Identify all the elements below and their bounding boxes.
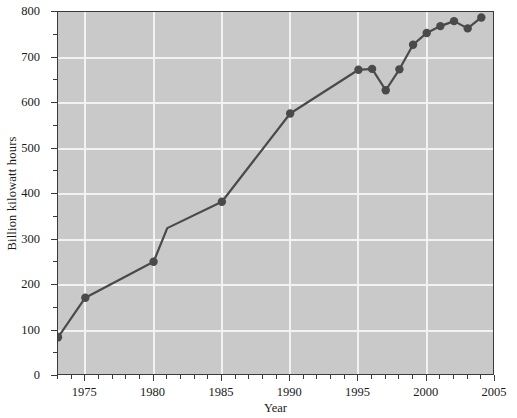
- x-axis-title: Year: [57, 401, 494, 416]
- data-series-line: [58, 12, 493, 374]
- x-axis-tick-minor: [467, 375, 468, 379]
- x-axis-tick-label: 1980: [140, 386, 165, 399]
- plot-area: [57, 11, 494, 375]
- x-axis-tick-labels: 1975198019851990199520002005: [57, 386, 494, 402]
- data-point-marker: [81, 294, 89, 302]
- x-axis-tick-major: [84, 375, 85, 381]
- y-axis-tick-label: 800: [21, 5, 40, 18]
- x-axis-tick-minor: [112, 375, 113, 379]
- x-axis-tick-minor: [398, 375, 399, 379]
- data-point-marker: [463, 24, 471, 32]
- y-axis-tick-label: 100: [21, 323, 40, 336]
- x-axis-tick-label: 2005: [482, 386, 507, 399]
- x-axis-tick-minor: [276, 375, 277, 379]
- data-point-marker: [477, 13, 485, 21]
- data-point-marker: [368, 65, 376, 73]
- x-axis-tick-label: 2000: [413, 386, 438, 399]
- data-point-marker: [450, 17, 458, 25]
- y-axis-tick-label: 400: [21, 187, 40, 200]
- x-axis-tick-major: [289, 375, 290, 381]
- x-axis-tick-minor: [125, 375, 126, 379]
- data-point-marker: [395, 65, 403, 73]
- x-axis-tick-major: [494, 375, 495, 381]
- data-point-marker: [218, 198, 226, 206]
- x-axis-title-text: Year: [264, 401, 287, 415]
- x-axis-tick-label: 1975: [72, 386, 97, 399]
- x-axis-tick-minor: [57, 375, 58, 379]
- x-axis-tick-major: [426, 375, 427, 381]
- x-axis-tick-minor: [139, 375, 140, 379]
- x-axis-tick-minor: [412, 375, 413, 379]
- x-axis-tick-minor: [71, 375, 72, 379]
- x-axis-tick-minor: [453, 375, 454, 379]
- x-axis-tick-minor: [248, 375, 249, 379]
- x-axis-tick-label: 1995: [345, 386, 370, 399]
- x-axis-tick-label: 1985: [208, 386, 233, 399]
- x-axis-tick-minor: [180, 375, 181, 379]
- x-axis-tick-minor: [166, 375, 167, 379]
- y-axis-ticks: [43, 11, 57, 375]
- x-axis-tick-minor: [371, 375, 372, 379]
- y-axis-tick-label: 700: [21, 50, 40, 63]
- y-axis-tick-label: 600: [21, 96, 40, 109]
- x-axis-tick-minor: [235, 375, 236, 379]
- chart-figure: Billion kilowatt hours 01002003004005006…: [0, 0, 517, 418]
- data-point-marker: [149, 258, 157, 266]
- x-axis-tick-label: 1990: [277, 386, 302, 399]
- x-axis-tick-minor: [207, 375, 208, 379]
- x-axis-tick-major: [221, 375, 222, 381]
- data-point-marker: [354, 66, 362, 74]
- x-axis-tick-minor: [316, 375, 317, 379]
- series-line: [58, 17, 481, 337]
- x-axis-tick-minor: [303, 375, 304, 379]
- x-axis-tick-major: [357, 375, 358, 381]
- data-point-marker: [436, 22, 444, 30]
- data-point-marker: [409, 41, 417, 49]
- x-axis-ticks: [57, 375, 494, 385]
- data-point-marker: [423, 29, 431, 37]
- data-point-marker: [58, 333, 62, 341]
- x-axis-tick-minor: [439, 375, 440, 379]
- x-axis-tick-minor: [330, 375, 331, 379]
- x-axis-tick-minor: [98, 375, 99, 379]
- y-axis-tick-label: 200: [21, 278, 40, 291]
- x-axis-tick-minor: [262, 375, 263, 379]
- x-axis-tick-minor: [480, 375, 481, 379]
- data-point-marker: [382, 86, 390, 94]
- y-axis-tick-labels: 0100200300400500600700800: [0, 11, 40, 375]
- x-axis-tick-major: [153, 375, 154, 381]
- y-axis-tick-label: 300: [21, 232, 40, 245]
- x-axis-tick-minor: [385, 375, 386, 379]
- data-point-marker: [286, 109, 294, 117]
- y-axis-tick-label: 500: [21, 141, 40, 154]
- x-axis-tick-minor: [194, 375, 195, 379]
- y-axis-tick-label: 0: [34, 369, 40, 382]
- series-plot: [58, 12, 494, 375]
- x-axis-tick-minor: [344, 375, 345, 379]
